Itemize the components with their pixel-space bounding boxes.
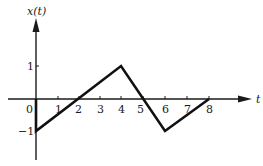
signal-plot: t x(t) 0 1 2 3 4 5 6 7 8 1 −1 xyxy=(0,0,263,166)
t-axis-label: t xyxy=(256,93,261,106)
y-axis-label: x(t) xyxy=(27,5,46,18)
tick-label-4: 4 xyxy=(118,103,125,116)
y-tick-label-1: 1 xyxy=(27,60,34,73)
tick-label-3: 3 xyxy=(97,103,104,116)
tick-label-6: 6 xyxy=(162,103,169,116)
tick-label-2: 2 xyxy=(75,103,82,116)
t-axis-arrow-icon xyxy=(238,96,252,103)
y-axis-arrow-icon xyxy=(33,18,40,32)
y-tick-label-neg1: −1 xyxy=(18,125,34,138)
tick-label-8: 8 xyxy=(206,103,213,116)
tick-label-5: 5 xyxy=(137,103,144,116)
tick-label-0: 0 xyxy=(26,103,33,116)
